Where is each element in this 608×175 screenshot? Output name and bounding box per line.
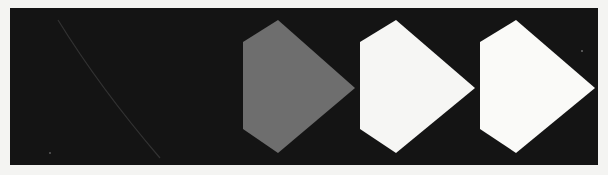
- photo-frame: Three arrow-shaped pentagons on dark bac…: [0, 0, 608, 175]
- grey-pentagon-arrow: [243, 20, 355, 153]
- dark-panel: [10, 8, 598, 165]
- white-pentagon-arrow-middle: [360, 20, 475, 153]
- dust-speck: [581, 50, 583, 52]
- dust-speck: [49, 152, 51, 154]
- faint-streak: [58, 20, 160, 158]
- white-pentagon-arrow-right: [480, 20, 595, 153]
- shapes-canvas: [10, 8, 598, 165]
